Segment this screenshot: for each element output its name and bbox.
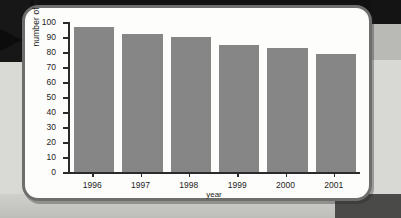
bar-chart: number of orcas 0102030405060708090100 1… [25, 8, 369, 198]
x-axis: 199619971998199920002001 [68, 172, 360, 174]
chart-card: number of orcas 0102030405060708090100 1… [22, 5, 372, 201]
x-axis-label: year [68, 190, 360, 199]
y-axis-tick-label: 10 [47, 153, 56, 162]
y-axis-tick-label: 100 [42, 18, 56, 27]
y-axis-tick: 90 [63, 37, 68, 39]
y-axis-tick: 70 [63, 67, 68, 69]
bar-1998 [171, 37, 212, 172]
y-axis-tick: 40 [63, 112, 68, 114]
bar-1996 [74, 27, 115, 173]
bar-2000 [267, 48, 308, 173]
x-axis-tick-label: 1997 [131, 180, 150, 190]
y-axis-tick-label: 20 [47, 138, 56, 147]
x-axis-tick-label: 2000 [276, 180, 295, 190]
y-axis-tick: 100 [63, 22, 68, 24]
bar-1999 [219, 45, 260, 173]
y-axis-tick-label: 30 [47, 123, 56, 132]
y-axis-tick-label: 80 [47, 48, 56, 57]
y-axis-label: number of orcas [31, 0, 41, 60]
x-axis-tick [141, 172, 143, 177]
right-arrow-icon [0, 29, 22, 51]
y-axis-tick: 60 [63, 82, 68, 84]
bar-series [70, 22, 360, 172]
y-axis-tick: 30 [63, 127, 68, 129]
y-axis-tick: 20 [63, 142, 68, 144]
y-axis-tick-label: 40 [47, 108, 56, 117]
x-axis-tick [92, 172, 94, 177]
y-axis-tick: 80 [63, 52, 68, 54]
x-axis-tick [189, 172, 191, 177]
x-axis-tick [286, 172, 288, 177]
x-axis-tick [237, 172, 239, 177]
bar-2001 [316, 54, 357, 173]
x-axis-tick-label: 2001 [324, 180, 343, 190]
y-axis-tick: 50 [63, 97, 68, 99]
y-axis-tick-label: 50 [47, 93, 56, 102]
page-edge-right-shadow [371, 0, 401, 24]
x-axis-tick-label: 1999 [228, 180, 247, 190]
y-axis-tick-label: 70 [47, 63, 56, 72]
x-axis-tick-label: 1996 [83, 180, 102, 190]
y-axis-tick-label: 0 [51, 168, 56, 177]
x-axis-tick [334, 172, 336, 177]
y-axis-tick-label: 60 [47, 78, 56, 87]
x-axis-tick-label: 1998 [179, 180, 198, 190]
y-axis-tick: 10 [63, 157, 68, 159]
bar-1997 [122, 34, 163, 172]
y-axis-tick-label: 90 [47, 33, 56, 42]
